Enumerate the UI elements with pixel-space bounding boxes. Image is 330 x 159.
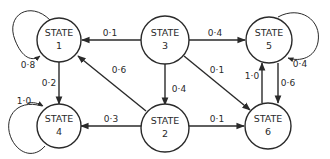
state-diagram: STATE 1 STATE 3 STATE 5 STATE 4 STATE 2 …: [0, 0, 330, 159]
label-2-1: 0·6: [112, 65, 127, 75]
state-6-title: STATE: [254, 113, 283, 124]
label-2-6: 0·1: [210, 114, 224, 124]
state-3-number: 3: [162, 40, 168, 51]
state-4-number: 4: [56, 126, 62, 137]
state-6-node: STATE 6: [245, 103, 291, 149]
label-3-2: 0·4: [172, 84, 187, 94]
label-1-1: 0·8: [21, 60, 36, 70]
label-4-4: 1·0: [17, 96, 32, 106]
label-3-5: 0·4: [208, 28, 223, 38]
state-3-title: STATE: [151, 27, 180, 38]
state-2-node: STATE 2: [141, 104, 189, 152]
state-5-title: STATE: [255, 27, 284, 38]
state-1-node: STATE 1: [37, 18, 81, 62]
state-2-number: 2: [162, 128, 168, 139]
label-3-1: 0·1: [103, 28, 117, 38]
state-2-title: STATE: [151, 115, 180, 126]
label-6-5: 1·0: [245, 71, 260, 81]
label-5-5: 0·4: [293, 59, 308, 69]
state-5-number: 5: [266, 40, 272, 51]
label-2-4: 0·3: [104, 114, 118, 124]
state-6-number: 6: [265, 126, 271, 137]
state-4-node: STATE 4: [37, 104, 81, 148]
state-5-node: STATE 5: [246, 17, 292, 63]
state-3-node: STATE 3: [141, 16, 189, 64]
label-1-4: 0·2: [42, 78, 56, 88]
label-5-6: 0·6: [281, 78, 296, 88]
state-1-number: 1: [56, 40, 62, 51]
label-3-6: 0·1: [210, 65, 224, 75]
state-1-title: STATE: [45, 27, 74, 38]
state-4-title: STATE: [45, 113, 74, 124]
